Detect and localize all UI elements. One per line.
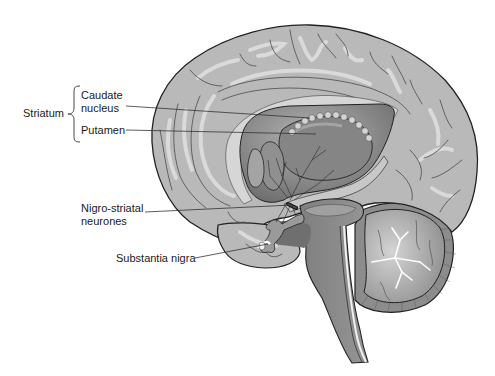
- brain-illustration: [0, 0, 495, 376]
- brain-diagram: Striatum Caudate nucleus Putamen Nigro-s…: [0, 0, 495, 376]
- label-caudate-line1: Caudate: [81, 89, 123, 102]
- label-substantia-nigra: Substantia nigra: [116, 252, 196, 265]
- label-caudate-line2: nucleus: [81, 102, 119, 115]
- striatum-bracket: [68, 86, 80, 142]
- label-nigro-line1: Nigro-striatal: [81, 202, 143, 215]
- label-putamen: Putamen: [81, 124, 125, 137]
- label-nigro-line2: neurones: [81, 215, 127, 228]
- label-striatum: Striatum: [23, 107, 64, 120]
